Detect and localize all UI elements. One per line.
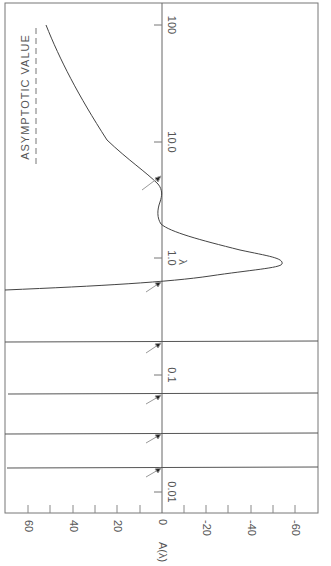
- value-tick-neg60: -60: [290, 520, 302, 536]
- lambda-tick-100: 100: [166, 16, 178, 34]
- value-tick-neg40: -40: [246, 520, 258, 536]
- value-axis-label: A(λ): [157, 542, 169, 562]
- value-tick-neg20: -20: [201, 520, 213, 536]
- value-tick-40: 40: [68, 520, 80, 532]
- value-tick-60: 60: [23, 520, 35, 532]
- lambda-tick-0.01: 0.01: [166, 481, 178, 502]
- asymptote-label: ASYMPTOTIC VALUE: [19, 34, 31, 160]
- lambda-tick-1: 1.0: [166, 250, 178, 265]
- curve-lambda-label: λ: [177, 259, 189, 265]
- chart-canvas: 100 10.0 1.0 0.1 0.01 60 40 20 0 -20 -40…: [0, 0, 331, 566]
- lambda-tick-0.1: 0.1: [166, 367, 178, 382]
- value-tick-0: 0: [157, 519, 169, 525]
- value-tick-20: 20: [112, 520, 124, 532]
- lambda-tick-10: 10.0: [166, 131, 178, 152]
- main-curve: [5, 25, 282, 290]
- lambda-ticks: [154, 25, 162, 492]
- zero-crossing-arrows: [142, 176, 161, 477]
